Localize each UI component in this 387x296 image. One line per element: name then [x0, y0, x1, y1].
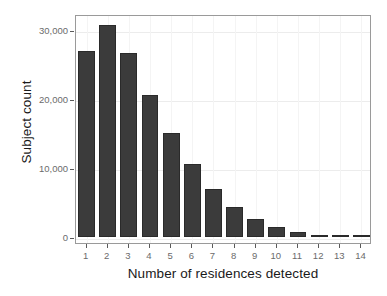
x-tick-mark: [360, 244, 361, 248]
bar: [163, 133, 180, 237]
bar: [78, 51, 95, 237]
y-tick-label: 10,000: [26, 163, 68, 175]
bar: [290, 232, 307, 237]
x-tick-label: 14: [345, 250, 375, 261]
x-tick-mark: [234, 244, 235, 248]
bar: [99, 25, 116, 237]
bar: [184, 164, 201, 237]
bar: [226, 207, 243, 237]
y-tick-label: 30,000: [26, 25, 68, 37]
bar: [120, 53, 137, 237]
gridline-horizontal: [76, 32, 370, 33]
bar: [311, 235, 328, 237]
gridline-vertical: [340, 16, 341, 243]
gridline-vertical: [277, 16, 278, 243]
bar: [353, 235, 370, 237]
bar: [268, 227, 285, 237]
y-tick-label-text: 10,000: [26, 163, 68, 174]
y-tick-label-text: 0: [26, 232, 68, 243]
bar: [205, 189, 222, 237]
y-tick-label: 20,000: [26, 94, 68, 106]
bar: [332, 235, 349, 237]
x-axis-title: Number of residences detected: [75, 266, 371, 281]
x-tick-mark: [297, 244, 298, 248]
gridline-vertical: [298, 16, 299, 243]
y-tick-mark: [70, 169, 74, 170]
gridline-horizontal: [76, 239, 370, 240]
bar: [142, 95, 159, 237]
y-tick-mark: [70, 100, 74, 101]
y-tick-mark: [70, 31, 74, 32]
y-tick-label: 0: [26, 232, 68, 244]
x-tick-mark: [318, 244, 319, 248]
x-tick-mark: [128, 244, 129, 248]
y-tick-mark: [70, 238, 74, 239]
x-tick-mark: [339, 244, 340, 248]
y-tick-label-text: 20,000: [26, 94, 68, 105]
gridline-vertical: [256, 16, 257, 243]
x-tick-mark: [170, 244, 171, 248]
x-tick-mark: [255, 244, 256, 248]
gridline-vertical: [319, 16, 320, 243]
x-tick-mark: [107, 244, 108, 248]
bar: [247, 219, 264, 237]
x-tick-mark: [212, 244, 213, 248]
plot-panel: [75, 15, 371, 244]
x-tick-mark: [149, 244, 150, 248]
x-tick-mark: [191, 244, 192, 248]
bar-chart-figure: Subject count 010,00020,00030,000 123456…: [0, 0, 387, 296]
gridline-vertical: [361, 16, 362, 243]
x-tick-mark: [276, 244, 277, 248]
x-tick-mark: [86, 244, 87, 248]
y-tick-label-text: 30,000: [26, 25, 68, 36]
